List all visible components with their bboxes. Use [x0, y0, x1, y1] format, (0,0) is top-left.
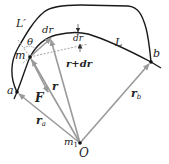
label-theta: θ — [27, 36, 33, 47]
label-r-a: ra — [36, 114, 46, 128]
point-m — [28, 55, 32, 59]
label-r-b-sub: b — [137, 93, 142, 101]
force-vector-F — [30, 57, 48, 92]
label-b: b — [153, 47, 160, 60]
label-r-b: rb — [131, 87, 142, 101]
point-O — [78, 141, 82, 145]
label-a: a — [7, 84, 14, 97]
dr-vector — [30, 38, 51, 57]
label-r: r — [52, 80, 59, 93]
label-m1: m1 — [64, 136, 78, 149]
label-O: O — [79, 146, 89, 160]
path-L-prime — [12, 5, 151, 92]
label-r-a-sub: a — [42, 120, 46, 128]
label-m: m — [15, 49, 25, 62]
label-L-prime: L′ — [15, 17, 26, 30]
point-a — [15, 90, 19, 94]
label-r-plus-dr: r+dr — [66, 58, 93, 69]
gravity-work-diagram: L′ L θ dr dr m r+dr r F a b ra rb m1 O — [0, 0, 169, 164]
label-F: F — [34, 91, 45, 105]
label-m1-sub: 1 — [73, 141, 77, 149]
label-m1-main: m — [64, 136, 73, 147]
label-dr-small: dr — [73, 33, 84, 43]
label-L: L — [114, 36, 122, 49]
vector-r-b — [80, 64, 149, 143]
point-b — [149, 60, 153, 64]
label-dr: dr — [42, 24, 54, 35]
